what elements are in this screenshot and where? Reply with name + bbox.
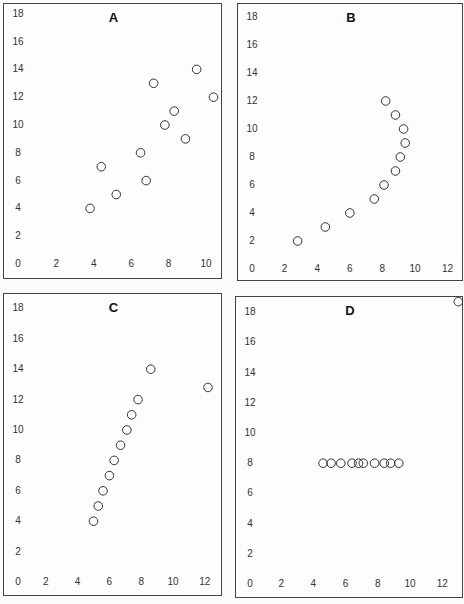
x-tick-label: 4 <box>311 578 317 589</box>
data-point-marker <box>359 459 368 468</box>
x-tick-label: 8 <box>380 263 386 274</box>
y-tick-label: 14 <box>244 367 256 378</box>
data-point-marker <box>181 135 190 144</box>
y-tick-label: 10 <box>12 424 24 435</box>
y-tick-label: 0 <box>15 258 21 269</box>
x-tick-label: 2 <box>278 578 284 589</box>
data-point-marker <box>346 209 355 218</box>
data-point-marker <box>112 190 121 199</box>
x-tick-label: 6 <box>343 578 349 589</box>
x-tick-label: 12 <box>442 263 454 274</box>
data-point-marker <box>354 459 363 468</box>
x-tick-label: 8 <box>138 576 144 587</box>
y-tick-label: 12 <box>244 397 256 408</box>
data-point-marker <box>127 411 136 420</box>
y-tick-label: 16 <box>244 336 256 347</box>
panel-title: D <box>345 303 354 318</box>
x-tick-label: 10 <box>404 578 416 589</box>
y-tick-label: 6 <box>247 487 253 498</box>
data-point-marker <box>293 237 302 246</box>
data-point-marker <box>136 149 145 158</box>
data-point-marker <box>99 487 108 496</box>
x-tick-label: 8 <box>375 578 381 589</box>
x-tick-label: 8 <box>166 258 172 269</box>
x-tick-label: 10 <box>200 258 212 269</box>
data-point-marker <box>381 97 390 106</box>
y-tick-label: 4 <box>247 518 253 529</box>
data-point-marker <box>110 456 119 465</box>
y-tick-label: 4 <box>15 515 21 526</box>
y-tick-label: 16 <box>12 36 24 47</box>
data-point-marker <box>161 121 170 130</box>
data-point-marker <box>401 139 410 148</box>
data-point-marker <box>321 223 330 232</box>
y-tick-label: 8 <box>247 457 253 468</box>
x-tick-label: 6 <box>107 576 113 587</box>
y-tick-label: 18 <box>246 11 258 22</box>
data-point-marker <box>89 517 98 526</box>
data-point-marker <box>94 502 103 511</box>
data-point-marker <box>394 459 403 468</box>
data-point-marker <box>149 79 158 88</box>
scatter-plot-area: A024681012141618246810 <box>4 4 223 280</box>
data-point-marker <box>391 167 400 176</box>
data-point-marker <box>123 426 132 435</box>
y-tick-label: 0 <box>249 263 255 274</box>
data-point-marker <box>386 459 395 468</box>
y-tick-label: 18 <box>12 302 24 313</box>
data-point-marker <box>192 65 201 74</box>
y-tick-label: 2 <box>249 235 255 246</box>
y-tick-label: 6 <box>15 175 21 186</box>
y-tick-label: 18 <box>12 8 24 19</box>
x-tick-label: 4 <box>75 576 81 587</box>
y-tick-label: 8 <box>249 151 255 162</box>
x-tick-label: 12 <box>199 576 211 587</box>
y-tick-label: 6 <box>249 179 255 190</box>
scatter-panel-b: B02468101214161824681012 <box>237 3 463 281</box>
y-tick-label: 16 <box>246 39 258 50</box>
y-tick-label: 6 <box>15 485 21 496</box>
data-point-marker <box>454 297 463 306</box>
x-tick-label: 12 <box>437 578 449 589</box>
data-point-marker <box>209 93 218 102</box>
y-tick-label: 14 <box>12 63 24 74</box>
y-tick-label: 10 <box>12 119 24 130</box>
data-point-marker <box>134 395 143 404</box>
y-tick-label: 14 <box>12 363 24 374</box>
data-point-marker <box>170 107 179 116</box>
data-point-marker <box>204 383 213 392</box>
data-point-marker <box>105 471 114 480</box>
data-point-marker <box>142 176 151 185</box>
x-tick-label: 10 <box>409 263 421 274</box>
y-tick-label: 12 <box>246 95 258 106</box>
x-tick-label: 4 <box>91 258 97 269</box>
scatter-panel-a: A024681012141618246810 <box>3 3 222 279</box>
y-tick-label: 4 <box>15 202 21 213</box>
y-tick-label: 2 <box>15 546 21 557</box>
y-tick-label: 2 <box>15 230 21 241</box>
data-point-marker <box>396 153 405 162</box>
panel-title: B <box>346 10 355 25</box>
y-tick-label: 0 <box>15 576 21 587</box>
x-tick-label: 6 <box>128 258 134 269</box>
data-point-marker <box>391 111 400 120</box>
y-tick-label: 10 <box>244 427 256 438</box>
y-tick-label: 2 <box>247 548 253 559</box>
y-tick-label: 18 <box>244 306 256 317</box>
x-tick-label: 2 <box>282 263 288 274</box>
scatter-plot-area: B02468101214161824681012 <box>238 4 464 282</box>
data-point-marker <box>370 195 379 204</box>
data-point-marker <box>380 181 389 190</box>
y-tick-label: 4 <box>249 207 255 218</box>
data-point-marker <box>370 459 379 468</box>
scatter-plot-area: C02468101214161824681012 <box>4 294 223 597</box>
y-tick-label: 0 <box>247 578 253 589</box>
y-tick-label: 16 <box>12 333 24 344</box>
scatter-plot-area: D02468101214161824681012 <box>236 297 464 599</box>
data-point-marker <box>336 459 345 468</box>
panel-title: C <box>109 300 119 315</box>
y-tick-label: 14 <box>246 67 258 78</box>
scatter-panel-c: C02468101214161824681012 <box>3 293 222 596</box>
y-tick-label: 8 <box>15 147 21 158</box>
data-point-marker <box>146 365 155 374</box>
